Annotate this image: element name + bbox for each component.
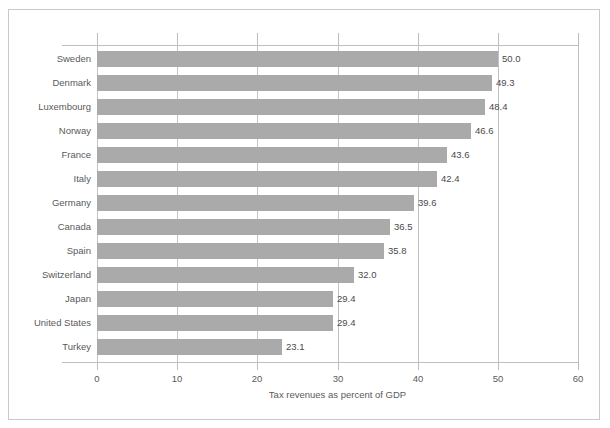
x-axis-line xyxy=(62,362,579,363)
x-tick-label: 10 xyxy=(157,373,197,384)
x-tick-label: 40 xyxy=(398,373,438,384)
x-tick-label: 20 xyxy=(237,373,277,384)
bar xyxy=(97,267,354,283)
category-label: Canada xyxy=(0,219,91,235)
tick-mark-top xyxy=(498,33,499,45)
category-label: Norway xyxy=(0,123,91,139)
x-tick-label: 50 xyxy=(478,373,518,384)
category-label: Luxembourg xyxy=(0,99,91,115)
bar xyxy=(97,243,384,259)
tick-mark-top xyxy=(97,33,98,45)
value-label: 23.1 xyxy=(286,339,305,355)
value-label: 49.3 xyxy=(496,75,515,91)
tick-mark-bottom xyxy=(418,362,419,370)
bar xyxy=(97,147,447,163)
x-tick-label: 60 xyxy=(558,373,598,384)
category-label: France xyxy=(0,147,91,163)
tick-mark-top xyxy=(418,33,419,45)
category-label: Italy xyxy=(0,171,91,187)
tax-revenue-bar-chart: SwedenDenmarkLuxembourgNorwayFranceItaly… xyxy=(0,0,610,428)
category-label: Turkey xyxy=(0,339,91,355)
bar xyxy=(97,123,471,139)
tick-mark-top xyxy=(578,33,579,45)
value-label: 42.4 xyxy=(441,171,460,187)
value-label: 46.6 xyxy=(475,123,494,139)
x-axis-title: Tax revenues as percent of GDP xyxy=(97,389,578,400)
category-label: Denmark xyxy=(0,75,91,91)
plot-area: SwedenDenmarkLuxembourgNorwayFranceItaly… xyxy=(0,0,610,428)
x-tick-label: 0 xyxy=(77,373,117,384)
plot-top-rule xyxy=(62,45,579,46)
bar xyxy=(97,75,492,91)
value-label: 48.4 xyxy=(489,99,508,115)
bar xyxy=(97,339,282,355)
value-label: 29.4 xyxy=(337,291,356,307)
value-label: 39.6 xyxy=(418,195,437,211)
tick-mark-bottom xyxy=(338,362,339,370)
value-label: 32.0 xyxy=(358,267,377,283)
bar xyxy=(97,171,437,187)
tick-mark-bottom xyxy=(97,362,98,370)
value-label: 29.4 xyxy=(337,315,356,331)
category-label: Japan xyxy=(0,291,91,307)
category-label: Spain xyxy=(0,243,91,259)
value-label: 50.0 xyxy=(502,51,521,67)
value-label: 43.6 xyxy=(451,147,470,163)
bar xyxy=(97,315,333,331)
category-label: Switzerland xyxy=(0,267,91,283)
value-label: 36.5 xyxy=(394,219,413,235)
tick-mark-top xyxy=(177,33,178,45)
tick-mark-bottom xyxy=(498,362,499,370)
category-label: United States xyxy=(0,315,91,331)
gridline xyxy=(578,33,579,362)
tick-mark-bottom xyxy=(257,362,258,370)
value-label: 35.8 xyxy=(388,243,407,259)
tick-mark-bottom xyxy=(578,362,579,370)
tick-mark-top xyxy=(257,33,258,45)
bar xyxy=(97,99,485,115)
x-tick-label: 30 xyxy=(318,373,358,384)
bar xyxy=(97,219,390,235)
tick-mark-top xyxy=(338,33,339,45)
bar xyxy=(97,195,414,211)
bar xyxy=(97,51,498,67)
tick-mark-bottom xyxy=(177,362,178,370)
bar xyxy=(97,291,333,307)
category-label: Germany xyxy=(0,195,91,211)
category-label: Sweden xyxy=(0,51,91,67)
